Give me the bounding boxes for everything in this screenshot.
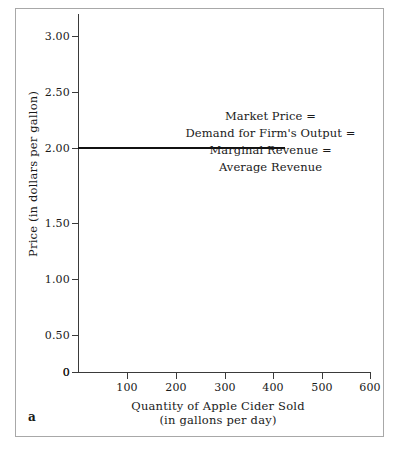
x-tick-200 <box>176 373 177 379</box>
y-tick-label-5: 2.50 <box>45 87 70 98</box>
x-axis-title-line1: Quantity of Apple Cider Sold <box>118 400 318 414</box>
chart-annotation-block: Market Price = Demand for Firm's Output … <box>180 108 361 176</box>
x-tick-label-100: 100 <box>107 382 147 393</box>
annotation-marginal-revenue: Marginal Revenue = <box>180 142 361 159</box>
y-tick-3 <box>72 223 78 224</box>
annotation-market-price: Market Price = <box>180 108 361 125</box>
x-tick-label-200: 200 <box>156 382 196 393</box>
y-tick-5 <box>72 92 78 93</box>
x-tick-label-400: 400 <box>253 382 293 393</box>
y-tick-2 <box>72 279 78 280</box>
x-tick-600 <box>370 373 371 379</box>
y-tick-0 <box>72 372 78 373</box>
annotation-average-revenue: Average Revenue <box>180 159 361 176</box>
x-tick-500 <box>322 373 323 379</box>
y-tick-label-1: 0.50 <box>45 330 70 341</box>
origin-label: 0 <box>63 367 70 378</box>
y-tick-label-4: 2.00 <box>45 143 70 154</box>
y-tick-6 <box>72 36 78 37</box>
x-tick-label-300: 300 <box>205 382 245 393</box>
y-tick-label-3: 1.50 <box>45 218 70 229</box>
panel-label: a <box>28 410 36 424</box>
y-tick-1 <box>72 335 78 336</box>
x-tick-300 <box>225 373 226 379</box>
y-tick-label-6: 3.00 <box>45 31 70 42</box>
y-axis-line <box>78 14 79 373</box>
x-tick-100 <box>127 373 128 379</box>
x-axis-title-line2: (in gallons per day) <box>118 414 318 428</box>
x-axis-title: Quantity of Apple Cider Sold (in gallons… <box>118 400 318 427</box>
annotation-demand-for-firms-output: Demand for Firm's Output = <box>180 125 361 142</box>
x-tick-label-600: 600 <box>350 382 390 393</box>
x-tick-label-500: 500 <box>302 382 342 393</box>
y-tick-label-2: 1.00 <box>45 274 70 285</box>
y-axis-title: Price (in dollars per gallon) <box>26 97 40 257</box>
x-tick-400 <box>273 373 274 379</box>
chart-plot-area: 0 0.50 1.00 1.50 2.00 2.50 3.00 100 200 … <box>0 0 396 449</box>
